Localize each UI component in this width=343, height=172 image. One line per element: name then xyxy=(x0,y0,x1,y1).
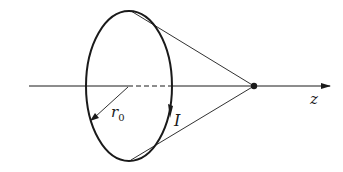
current-loop-diagram: r0 I z xyxy=(0,0,343,172)
current-label: I xyxy=(173,111,181,130)
radius-label-subscript: 0 xyxy=(118,112,124,123)
cone-line-bottom xyxy=(131,86,254,160)
cone-line-top xyxy=(131,11,254,86)
axis-label-z: z xyxy=(309,90,318,108)
radius-label: r0 xyxy=(111,103,125,123)
field-point xyxy=(251,83,257,89)
